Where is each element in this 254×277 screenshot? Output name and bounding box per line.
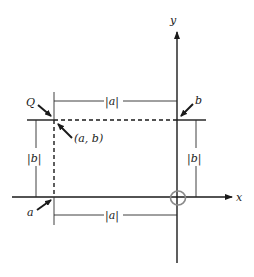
b-pointer: b [181,94,202,116]
dimension-bottom-abs-a-label: |a| [105,209,119,223]
origin-circle-mark [171,191,186,205]
b-label: b [195,94,202,107]
dimension-left-abs-b: |b| [27,120,41,197]
dimension-top-abs-a: |a| [54,95,177,109]
dimension-bottom-abs-a: |a| [54,209,177,223]
coordinates-label: (a, b) [74,132,103,145]
a-pointer: a [27,200,51,219]
point-q-pointer: Q [26,96,51,116]
point-q-label: Q [26,96,35,109]
coordinate-diagram: x y |a| |a| |b| |b| Q [0,0,254,277]
y-axis: y [169,14,177,263]
dimension-right-abs-b-label: |b| [187,152,201,166]
dimension-top-abs-a-label: |a| [105,95,119,109]
y-axis-label: y [169,14,177,27]
a-label: a [27,206,34,219]
x-axis-label: x [236,191,243,204]
dimension-right-abs-b: |b| [187,120,201,197]
dimension-left-abs-b-label: |b| [27,152,41,166]
coordinates-pointer: (a, b) [58,124,103,145]
